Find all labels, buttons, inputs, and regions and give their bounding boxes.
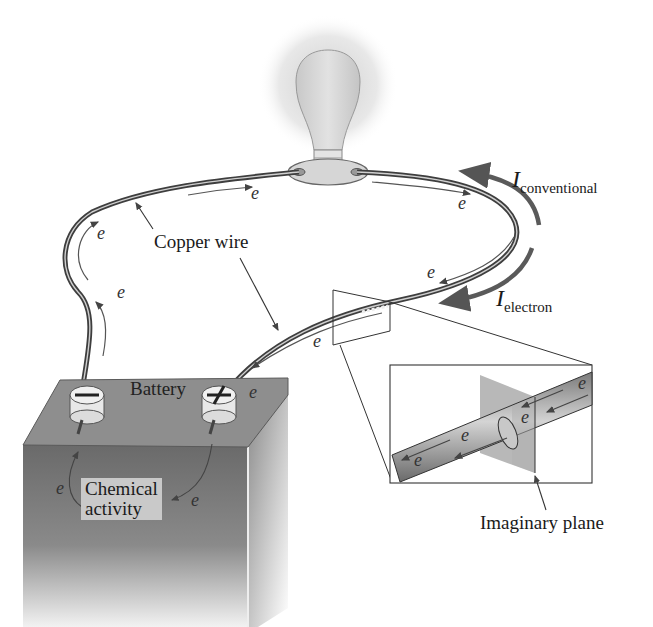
- circuit-diagram: Copper wire Battery Chemical activity Im…: [0, 0, 653, 627]
- copper-wire-pointers: [136, 203, 278, 330]
- electron-label: e: [251, 183, 259, 204]
- electron-label: e: [191, 490, 199, 511]
- electron-label: e: [414, 450, 422, 471]
- electron-label: e: [578, 373, 586, 394]
- battery-label: Battery: [130, 378, 186, 400]
- lamp-socket: [288, 159, 368, 185]
- i-electron-symbol: I: [496, 285, 504, 311]
- magnified-wire-inset: [390, 365, 592, 510]
- electron-label: e: [117, 282, 125, 303]
- electron-label: e: [458, 193, 466, 214]
- copper-wire-right: [228, 172, 517, 390]
- i-electron-label: Ielectron: [496, 285, 552, 316]
- chemical-activity-line1: Chemical: [85, 479, 158, 499]
- electron-flow-arrows: [79, 182, 514, 368]
- light-bulb-icon: [296, 50, 360, 170]
- electron-label: e: [249, 382, 257, 403]
- electron-label: e: [521, 407, 529, 428]
- electron-label: e: [97, 223, 105, 244]
- chemical-activity-line2: activity: [85, 499, 158, 519]
- chemical-activity-label: Chemical activity: [81, 478, 162, 520]
- i-conventional-symbol: I: [512, 166, 520, 192]
- i-conventional-subscript: conventional: [520, 180, 597, 196]
- electron-label: e: [427, 262, 435, 283]
- i-conventional-label: Iconventional: [512, 166, 597, 197]
- copper-wire-label: Copper wire: [154, 231, 248, 253]
- electron-label: e: [56, 478, 64, 499]
- imaginary-plane-label: Imaginary plane: [480, 512, 604, 534]
- electron-label: e: [461, 425, 469, 446]
- i-electron-subscript: electron: [504, 299, 552, 315]
- electron-label: e: [313, 331, 321, 352]
